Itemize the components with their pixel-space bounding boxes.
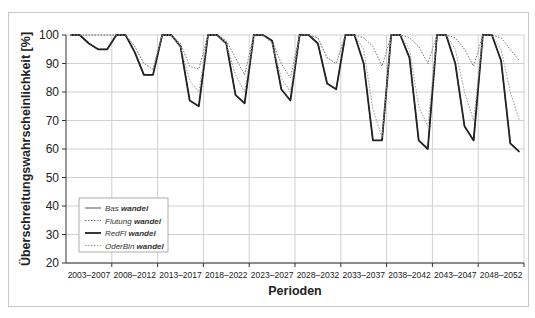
x-tick-label: 2033–2037 [342,270,385,280]
y-tick-label: 40 [46,199,60,213]
legend-label: OderBln wandel [105,242,164,251]
y-tick-label: 90 [46,57,60,71]
x-tick-label: 2023–2027 [251,270,294,280]
y-tick-label: 50 [46,171,60,185]
x-axis-label: Perioden [268,284,322,298]
legend: Bas wandelFlutung wandelRedFl wandelOder… [79,198,168,252]
legend-label: Bas wandel [105,204,149,213]
x-tick-label: 2008–2012 [113,270,156,280]
x-tick-label: 2018–2022 [205,270,248,280]
y-tick-label: 60 [46,142,60,156]
x-tick-label: 2003–2007 [68,270,111,280]
x-tick-label: 2013–2017 [159,270,202,280]
y-tick-label: 30 [46,228,60,242]
y-axis-label: Überschreitungswahrscheinlichkeit [%] [18,32,33,266]
y-tick-label: 70 [46,114,60,128]
x-tick-label: 2028–2032 [297,270,340,280]
legend-label: Flutung wandel [105,217,162,226]
y-tick-label: 100 [39,28,59,42]
x-tick-label: 2043–2047 [434,270,477,280]
y-tick-label: 20 [46,256,60,270]
x-tick-label: 2038–2042 [388,270,431,280]
y-tick-label: 80 [46,85,60,99]
legend-label: RedFl wandel [105,229,156,238]
x-tick-label: 2048–2052 [480,270,523,280]
line-chart: 20304050607080901002003–20072008–2012201… [0,0,535,318]
